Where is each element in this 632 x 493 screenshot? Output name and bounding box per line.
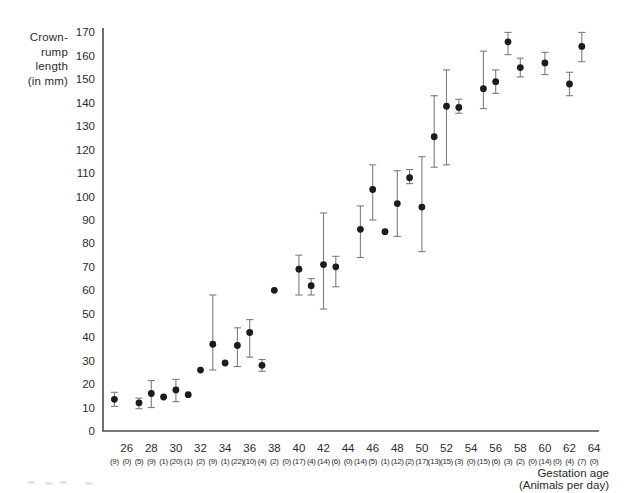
data-point-day-45: [357, 206, 364, 258]
mean-marker: [111, 396, 118, 403]
data-point-day-40: [295, 255, 302, 295]
y-tick-label: 150: [76, 73, 95, 85]
data-point-day-35: [234, 328, 241, 367]
mean-marker: [505, 38, 512, 45]
animal-count-label: (0): [467, 457, 476, 466]
data-point-day-58: [517, 58, 524, 77]
scan-artifact: [28, 481, 35, 484]
mean-marker: [148, 390, 155, 397]
animal-count-label: (4): [258, 457, 267, 466]
mean-marker: [197, 367, 204, 374]
data-point-day-37: [258, 359, 265, 371]
animal-count-label: (1): [221, 457, 230, 466]
x-tick-label: 40: [293, 442, 306, 454]
y-tick-label: 0: [89, 425, 95, 437]
data-point-day-62: [566, 72, 573, 95]
animal-count-label: (2): [270, 457, 279, 466]
animal-count-label: (6): [491, 457, 500, 466]
x-tick-label: 44: [342, 442, 355, 454]
data-point-day-57: [504, 32, 511, 54]
animal-count-label: (17): [293, 457, 306, 466]
scatter-plot: 0102030405060708090100110120130140150160…: [0, 0, 632, 493]
mean-marker: [246, 329, 253, 336]
mean-marker: [419, 204, 426, 211]
x-axis-title-line: (Animals per day): [519, 480, 609, 492]
mean-marker: [369, 186, 376, 193]
x-axis-title: Gestation age (Animals per day): [519, 468, 609, 491]
data-point-day-32: [197, 367, 204, 374]
data-point-day-63: [578, 32, 585, 61]
animal-count-label: (5): [368, 457, 377, 466]
y-tick-label: 140: [76, 97, 95, 109]
y-tick-label: 20: [82, 378, 95, 390]
data-point-day-43: [332, 256, 339, 286]
data-point-day-28: [148, 381, 155, 408]
x-tick-label: 46: [366, 442, 379, 454]
data-point-day-55: [480, 51, 487, 108]
mean-marker: [406, 174, 413, 181]
animal-count-label: (4): [307, 457, 316, 466]
animal-count-label: (0): [590, 457, 599, 466]
data-point-day-30: [172, 379, 179, 401]
x-tick-label: 48: [391, 442, 404, 454]
x-tick-label: 64: [588, 442, 601, 454]
y-tick-label: 80: [82, 237, 95, 249]
y-tick-label: 160: [76, 50, 95, 62]
animal-count-label: (14): [539, 457, 552, 466]
animal-count-label: (15): [440, 457, 453, 466]
y-tick-label: 30: [82, 355, 95, 367]
x-tick-label: 58: [514, 442, 527, 454]
mean-marker: [357, 226, 364, 233]
x-tick-label: 28: [145, 442, 158, 454]
mean-marker: [136, 399, 143, 406]
animal-count-label: (6): [331, 457, 340, 466]
animal-count-label: (5): [135, 457, 144, 466]
y-tick-label: 170: [76, 26, 95, 38]
data-point-day-34: [222, 360, 229, 367]
data-point-day-31: [185, 391, 192, 398]
animal-count-label: (7): [577, 457, 586, 466]
mean-marker: [308, 282, 315, 289]
x-tick-label: 56: [489, 442, 502, 454]
mean-marker: [578, 43, 585, 50]
animal-count-label: (9): [208, 457, 217, 466]
data-point-day-53: [455, 99, 462, 113]
data-point-day-60: [541, 52, 548, 74]
data-point-day-36: [246, 320, 253, 358]
x-tick-label: 32: [194, 442, 207, 454]
mean-marker: [480, 85, 487, 92]
animal-count-label: (4): [565, 457, 574, 466]
x-tick-label: 42: [317, 442, 330, 454]
animal-count-label: (9): [147, 457, 156, 466]
y-tick-label: 120: [76, 144, 95, 156]
mean-marker: [271, 287, 278, 294]
animal-count-label: (14): [317, 457, 330, 466]
x-tick-label: 52: [440, 442, 453, 454]
animal-count-label: (0): [122, 457, 131, 466]
mean-marker: [394, 200, 401, 207]
scan-artifact: [45, 482, 52, 485]
scan-artifact: [60, 481, 67, 484]
animal-count-label: (14): [354, 457, 367, 466]
data-point-day-25: [111, 392, 118, 406]
data-point-day-33: [209, 295, 216, 370]
animal-count-label: (1): [159, 457, 168, 466]
mean-marker: [332, 263, 339, 270]
y-tick-label: 100: [76, 191, 95, 203]
data-point-day-46: [369, 165, 376, 220]
x-axis-title-line: Gestation age: [519, 468, 609, 480]
data-point-day-49: [406, 170, 413, 184]
x-tick-label: 30: [170, 442, 183, 454]
data-point-day-51: [431, 96, 438, 168]
animal-count-label: (10): [243, 457, 256, 466]
x-tick-label: 26: [120, 442, 133, 454]
scan-artifact: [85, 482, 92, 485]
mean-marker: [296, 266, 303, 273]
animal-count-label: (0): [344, 457, 353, 466]
mean-marker: [222, 360, 229, 367]
figure-canvas: Crown- rump length (in mm) 0102030405060…: [0, 0, 632, 493]
y-tick-label: 40: [82, 331, 95, 343]
x-tick-label: 62: [563, 442, 576, 454]
data-point-day-48: [394, 171, 401, 237]
data-point-day-42: [320, 213, 327, 309]
